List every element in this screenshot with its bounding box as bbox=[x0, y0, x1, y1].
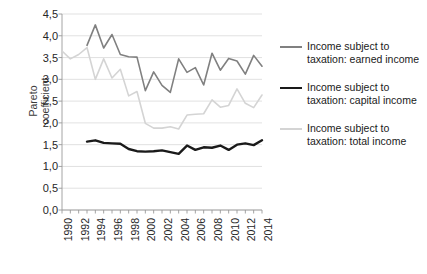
series-line bbox=[87, 140, 262, 154]
series-line bbox=[87, 25, 262, 93]
x-axis-tick-label: 1990 bbox=[62, 218, 74, 241]
x-axis-tick-label: 2006 bbox=[195, 218, 207, 241]
legend-line-icon bbox=[280, 46, 302, 48]
x-axis-tick-label: 1996 bbox=[112, 218, 124, 241]
x-axis-tick-label: 1994 bbox=[95, 218, 107, 241]
y-axis-tick-label: 3,0 bbox=[43, 73, 58, 85]
legend-item[interactable]: Income subject to taxation: total income bbox=[280, 122, 425, 148]
y-axis-tick-label: 1,5 bbox=[43, 139, 58, 151]
line-chart: Pareto coefficient 0,00,51,01,52,02,53,0… bbox=[0, 0, 427, 274]
x-axis-tick-label: 2012 bbox=[245, 218, 257, 241]
plot-area bbox=[62, 14, 262, 210]
x-axis-tick-label: 2002 bbox=[162, 218, 174, 241]
y-axis-tick-label: 0,0 bbox=[43, 204, 58, 216]
y-axis-tick-label: 2,5 bbox=[43, 95, 58, 107]
legend-item-label: Income subject to taxation: total income bbox=[307, 122, 425, 148]
legend-item-label: Income subject to taxation: earned incom… bbox=[307, 40, 425, 66]
x-axis-tick-label: 2004 bbox=[179, 218, 191, 241]
x-axis-tick-label: 2010 bbox=[229, 218, 241, 241]
x-axis-tick-label: 2000 bbox=[145, 218, 157, 241]
x-axis-tick-labels: 1990199219941996199820002002200420062008… bbox=[62, 214, 262, 274]
y-axis-tick-label: 0,5 bbox=[43, 182, 58, 194]
legend-line-icon bbox=[280, 128, 302, 130]
y-axis-tick-label: 2,0 bbox=[43, 117, 58, 129]
chart-legend: Income subject to taxation: earned incom… bbox=[280, 40, 425, 163]
x-axis-tick-label: 2014 bbox=[262, 218, 274, 241]
plot-svg bbox=[62, 14, 262, 210]
y-axis-tick-label: 1,0 bbox=[43, 160, 58, 172]
x-axis-tick-label: 1992 bbox=[79, 218, 91, 241]
legend-line-icon bbox=[280, 87, 302, 89]
x-axis-tick-label: 2008 bbox=[212, 218, 224, 241]
legend-item[interactable]: Income subject to taxation: capital inco… bbox=[280, 81, 425, 107]
y-axis-tick-label: 4,0 bbox=[43, 30, 58, 42]
x-axis-tick-label: 1998 bbox=[129, 218, 141, 241]
y-axis-tick-label: 3,5 bbox=[43, 52, 58, 64]
legend-item-label: Income subject to taxation: capital inco… bbox=[307, 81, 425, 107]
y-axis-tick-labels: 0,00,51,01,52,02,53,03,54,04,5 bbox=[28, 0, 58, 274]
legend-item[interactable]: Income subject to taxation: earned incom… bbox=[280, 40, 425, 66]
y-axis-tick-label: 4,5 bbox=[43, 8, 58, 20]
